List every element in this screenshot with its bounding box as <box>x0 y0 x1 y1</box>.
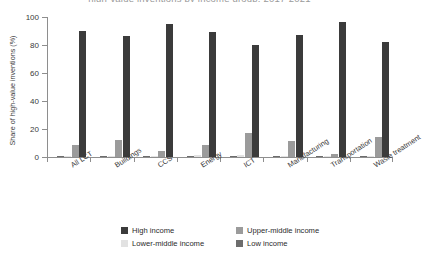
chart-title-clipped: high-value inventions by income group, 2… <box>0 0 399 2</box>
bar <box>324 156 331 157</box>
x-axis-tick <box>47 158 48 162</box>
y-axis-tick-label: 100 <box>13 13 39 22</box>
legend-label-upper-middle-income: Upper-middle income <box>247 226 319 235</box>
bar <box>281 156 288 157</box>
legend-row: Lower-middle income Low income <box>121 239 356 252</box>
y-axis-tick-label: 20 <box>13 125 39 134</box>
chart-legend: High income Upper-middle income Lower-mi… <box>121 226 356 252</box>
y-axis-tick-label: 40 <box>13 97 39 106</box>
bar <box>237 155 244 157</box>
y-axis-tick-label: 80 <box>13 41 39 50</box>
legend-label-high-income: High income <box>132 226 174 235</box>
x-axis-tick <box>177 158 178 162</box>
y-axis-tick <box>42 129 47 130</box>
bar <box>151 156 158 157</box>
bar <box>79 31 86 157</box>
bar <box>382 42 389 158</box>
legend-swatch-upper-middle-income <box>236 227 243 234</box>
y-axis-tick <box>42 45 47 46</box>
legend-label-low-income: Low income <box>247 239 288 248</box>
legend-swatch-high-income <box>121 227 128 234</box>
chart-title-text: high-value inventions by income group, 2… <box>0 0 399 2</box>
legend-item-high-income: High income <box>121 226 236 235</box>
bar <box>108 156 115 157</box>
bar <box>194 155 201 157</box>
legend-row: High income Upper-middle income <box>121 226 356 239</box>
bar <box>375 137 382 157</box>
bar-group <box>316 17 346 157</box>
bar <box>166 24 173 157</box>
legend-label-lower-middle-income: Lower-middle income <box>132 239 204 248</box>
bar <box>209 32 216 157</box>
bar <box>143 156 150 157</box>
bar-group <box>360 17 390 157</box>
bar-group <box>230 17 260 157</box>
legend-swatch-low-income <box>236 240 243 247</box>
bar <box>252 45 259 157</box>
legend-swatch-lower-middle-income <box>121 240 128 247</box>
y-axis-tick <box>42 17 47 18</box>
bar-group <box>187 17 217 157</box>
plot-area: 020406080100 <box>47 17 393 158</box>
bar <box>288 141 295 157</box>
y-axis-tick-label: 0 <box>13 153 39 162</box>
legend-item-upper-middle-income: Upper-middle income <box>236 226 319 235</box>
y-axis-line <box>47 17 48 158</box>
y-axis-title: Share of high-value inventions (%) <box>8 16 17 166</box>
bar-group <box>273 17 303 157</box>
bar <box>245 133 252 157</box>
x-axis-tick <box>263 158 264 162</box>
y-axis-tick <box>42 73 47 74</box>
bar <box>316 156 323 157</box>
bar <box>64 156 71 157</box>
bar <box>273 156 280 157</box>
y-axis-tick-label: 60 <box>13 69 39 78</box>
bar <box>187 156 194 157</box>
bar <box>296 35 303 157</box>
bar-group <box>143 17 173 157</box>
legend-item-lower-middle-income: Lower-middle income <box>121 239 236 248</box>
bar <box>100 156 107 157</box>
legend-item-low-income: Low income <box>236 239 288 248</box>
y-axis-tick <box>42 101 47 102</box>
bar-group <box>57 17 87 157</box>
bar <box>123 36 130 157</box>
bar <box>230 156 237 157</box>
bar <box>57 156 64 157</box>
bar <box>115 140 122 157</box>
bar <box>367 156 374 157</box>
bar <box>360 156 367 157</box>
bar <box>339 22 346 157</box>
bar-group <box>100 17 130 157</box>
